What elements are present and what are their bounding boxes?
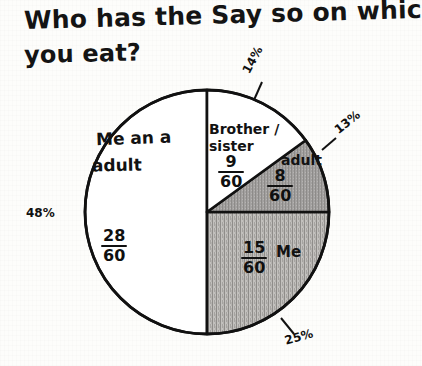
pie-slice-me-an-a-adult[interactable] bbox=[85, 90, 207, 334]
pie-slice-me[interactable] bbox=[207, 212, 329, 334]
pie-chart: Me an a adult 28 60 Brother / sister 9 6… bbox=[0, 0, 422, 366]
leader-line-me bbox=[281, 318, 294, 334]
leader-line-brother-sister bbox=[254, 82, 262, 100]
worksheet-page: Who has the Say so on which cereal you e… bbox=[0, 0, 422, 366]
pie-chart-svg bbox=[0, 0, 422, 366]
leader-line-adult bbox=[322, 138, 336, 150]
